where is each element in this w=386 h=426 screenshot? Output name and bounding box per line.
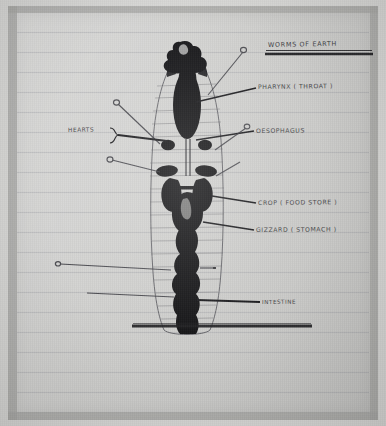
paper-edge-top bbox=[8, 6, 378, 13]
paper-edge-right bbox=[370, 6, 378, 420]
screenshot-canvas: WORMS OF EARTH PHARYNX ( THROAT ) OESOPH… bbox=[0, 0, 386, 426]
diagram-title: WORMS OF EARTH bbox=[268, 40, 337, 49]
label-crop: CROP ( FOOD STORE ) bbox=[258, 198, 337, 206]
label-oesophagus: OESOPHAGUS bbox=[256, 127, 305, 134]
paper-edge-bottom bbox=[8, 412, 378, 420]
paper-sheet bbox=[8, 6, 378, 420]
label-pharynx: PHARYNX ( THROAT ) bbox=[258, 82, 333, 90]
label-hearts: HEARTS bbox=[68, 126, 94, 133]
paper-edge-left bbox=[8, 6, 17, 420]
ruled-lines bbox=[17, 13, 369, 413]
label-gizzard: GIZZARD ( STOMACH ) bbox=[256, 225, 337, 233]
label-intestine: INTESTINE bbox=[262, 299, 296, 305]
